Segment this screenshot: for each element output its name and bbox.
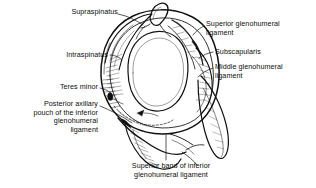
label-middle-glenohumeral-ligament: Middle glenohumeral ligament bbox=[215, 63, 315, 80]
glenoid-fossa bbox=[128, 31, 188, 111]
label-teres-minor: Teres minor bbox=[10, 83, 98, 92]
label-intraspinatus: Intraspinatus bbox=[10, 51, 108, 60]
subscapularis-muscle bbox=[192, 48, 212, 114]
biceps-tendon bbox=[136, 3, 171, 39]
label-supraspinatus: Supraspinatus bbox=[10, 8, 118, 17]
label-posterior-axillary-pouch: Posterior axillary pouch of the inferior… bbox=[2, 100, 98, 134]
label-subscapularis: Subscapularis bbox=[215, 48, 311, 57]
figure-page: Supraspinatus Intraspinatus Teres minor … bbox=[0, 0, 316, 188]
superior-glenohumeral-ligament bbox=[168, 20, 203, 69]
label-superior-glenohumeral-ligament: Superior glenohumeral ligament bbox=[206, 20, 312, 37]
label-superior-band-inferior-glenohumeral-ligament: Superior band of inferior glenohumeral l… bbox=[96, 162, 246, 179]
leader-superior-gh bbox=[193, 26, 204, 35]
